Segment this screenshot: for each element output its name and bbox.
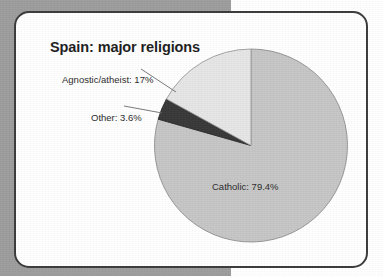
pie-chart-svg <box>16 13 370 270</box>
pie-chart <box>16 13 370 270</box>
pie-label-catholic: Catholic: 79.4% <box>212 181 279 192</box>
figure-frame: Spain: major religions Agnostic/atheist:… <box>14 11 368 268</box>
screenshot-root: Spain: major religions Agnostic/atheist:… <box>0 0 383 276</box>
pie-label-other: Other: 3.6% <box>91 112 142 123</box>
pie-label-agnostic-atheist: Agnostic/atheist: 17% <box>62 74 153 85</box>
